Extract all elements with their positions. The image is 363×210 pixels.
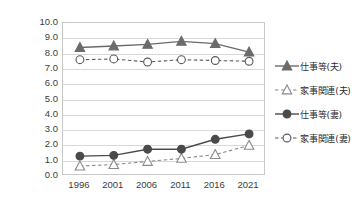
y-axis-tick-label: 6.0 [18,78,58,88]
series-layer [63,23,266,176]
y-axis-tick-label: 9.0 [18,32,58,42]
data-point-marker [178,145,186,153]
series-line [80,41,249,52]
data-point-marker [144,145,152,153]
series-2 [76,130,253,160]
legend-label: 家事関連(夫) [300,84,351,97]
y-axis-tick-label: 2.0 [18,139,58,149]
series-0 [75,36,254,56]
legend-item[interactable]: 家事関連(夫) [274,78,363,102]
data-point-marker [76,56,84,64]
legend-marker-icon [274,83,300,97]
y-axis-tick-label: 4.0 [18,109,58,119]
data-point-marker [110,55,118,63]
x-axis: 199620012006201120162021 [62,180,265,194]
data-point-marker [244,140,254,149]
data-point-marker [211,135,219,143]
data-point-marker [143,156,153,165]
legend-item[interactable]: 仕事等(夫) [274,54,363,78]
chart-legend: 仕事等(夫)家事関連(夫)仕事等(妻)家事関連(妻) [274,54,363,150]
y-axis-tick-label: 3.0 [18,124,58,134]
y-axis-tick-label: 5.0 [18,94,58,104]
legend-item[interactable]: 家事関連(妻) [274,126,363,150]
data-point-marker [144,58,152,66]
data-point-marker [178,56,186,64]
data-point-marker [177,36,187,45]
data-point-marker [283,134,291,142]
legend-marker-icon [274,107,300,121]
y-axis-tick-label: 0.0 [18,170,58,180]
legend-marker-icon [274,131,300,145]
x-axis-tick-label: 2021 [226,180,270,190]
data-point-marker [282,85,292,94]
data-point-marker [283,110,291,118]
y-axis-tick-label: 10.0 [18,17,58,27]
legend-label: 仕事等(夫) [300,60,342,73]
y-axis-tick-label: 8.0 [18,48,58,58]
y-axis-tick-label: 7.0 [18,63,58,73]
legend-item[interactable]: 仕事等(妻) [274,102,363,126]
legend-marker-icon [274,59,300,73]
data-point-marker [245,130,253,138]
data-point-marker [211,57,219,65]
data-point-marker [76,152,84,160]
y-axis-tick-label: 1.0 [18,155,58,165]
data-point-marker [110,151,118,159]
series-line [80,59,249,62]
line-chart: 10.09.08.07.06.05.04.03.02.01.00.0 19962… [0,0,363,210]
legend-label: 仕事等(妻) [300,108,342,121]
plot-area [62,22,265,175]
data-point-marker [245,57,253,65]
series-3 [76,55,253,66]
legend-label: 家事関連(妻) [300,132,351,145]
